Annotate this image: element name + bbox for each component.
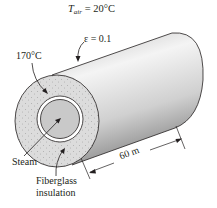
steam-label: Steam xyxy=(12,157,37,167)
air-temperature-label: Tair = 20°C xyxy=(68,4,115,16)
emissivity-arrow-icon xyxy=(76,42,85,62)
air-temp-value: = 20°C xyxy=(85,3,115,14)
insulated-steam-pipe-diagram: Tair = 20°C ε = 0.1 170°C Steam Fibergla… xyxy=(0,0,217,208)
pipe-illustration xyxy=(0,0,217,208)
insulation-label-line2: insulation xyxy=(36,187,77,199)
surface-temperature-label: 170°C xyxy=(16,51,42,61)
insulation-label-line1: Fiberglass xyxy=(36,175,77,187)
insulation-label: Fiberglass insulation xyxy=(36,175,77,199)
emissivity-label: ε = 0.1 xyxy=(84,34,111,44)
air-temp-subscript: air xyxy=(74,8,82,16)
